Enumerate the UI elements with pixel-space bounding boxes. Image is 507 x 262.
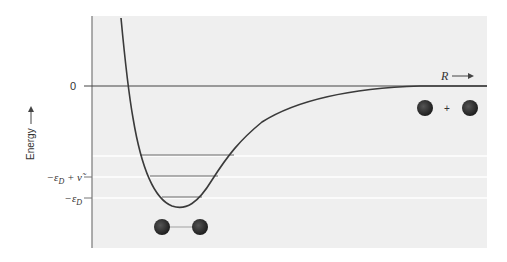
energy-arrow-head bbox=[28, 106, 34, 112]
tick-label-level1: −εD + ν̃ bbox=[47, 171, 87, 186]
atom-icon bbox=[154, 219, 170, 235]
atom-icon bbox=[417, 100, 433, 116]
plot-panel bbox=[92, 16, 487, 248]
plus-sign: + bbox=[444, 103, 450, 114]
y-axis-label: Energy bbox=[25, 128, 36, 160]
tick-label-level2: −εD bbox=[64, 192, 82, 207]
x-axis-label: R bbox=[440, 69, 449, 83]
tick-label-zero: 0 bbox=[70, 80, 76, 92]
atom-icon bbox=[192, 219, 208, 235]
potential-energy-diagram: + R 0 −εD + ν̃ −εD Energy bbox=[0, 0, 507, 262]
atom-icon bbox=[462, 100, 478, 116]
